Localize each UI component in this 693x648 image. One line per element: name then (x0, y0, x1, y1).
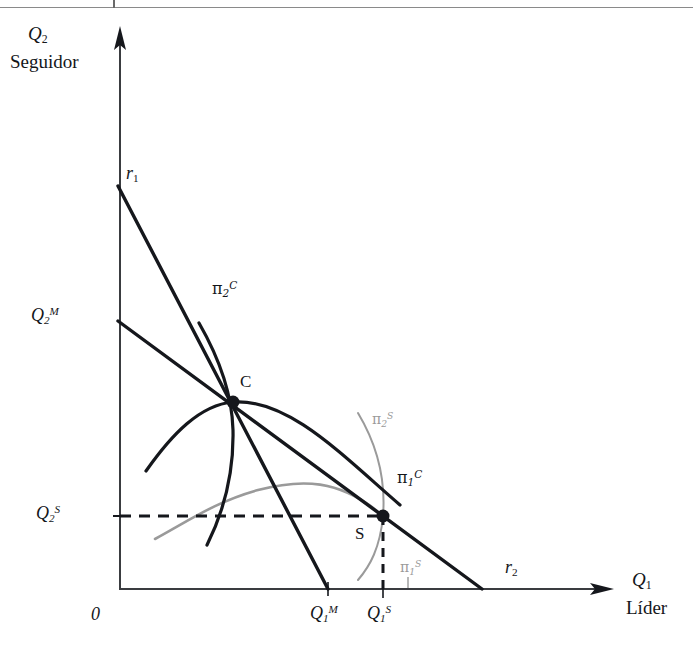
axes-group (114, 26, 614, 595)
reaction-line-label-r1: r1 (126, 164, 139, 182)
x-tick-label-q1m: Q1M (310, 604, 338, 622)
y-axis-symbol: Q2 (28, 24, 48, 43)
point-marker-C (227, 396, 240, 409)
tick-marks-group (113, 516, 383, 598)
isoprofit-label-pi2S: π2S (372, 412, 393, 426)
reaction-line-label-r2: r2 (505, 558, 518, 576)
isoprofit-curve-pi1C (146, 402, 400, 505)
point-label-S: S (355, 525, 364, 542)
point-label-C: C (240, 373, 251, 390)
x-axis-caption: Líder (626, 598, 667, 617)
reaction-line-r2 (118, 321, 482, 589)
x-axis-symbol: Q1 (632, 570, 652, 589)
isoprofit-gray-group (155, 413, 384, 580)
reaction-line-r1 (118, 186, 328, 589)
y-tick-label-q2m: Q2M (31, 306, 59, 324)
y-tick-label-q2s: Q2S (36, 504, 60, 522)
isoprofit-curve-pi2S (358, 413, 384, 580)
point-marker-S (377, 510, 390, 523)
stackelberg-diagram-svg (0, 0, 693, 648)
x-tick-label-q1s: Q1S (367, 604, 391, 622)
guide-lines-group (120, 516, 383, 589)
y-axis-caption: Seguidor (10, 52, 79, 71)
isoprofit-label-pi1S: π1S (400, 560, 421, 574)
isoprofit-label-pi1C: π1C (397, 470, 422, 486)
origin-label: 0 (91, 605, 100, 623)
figure-page: Q2 Seguidor Q1 Líder 0 Q2M Q2S Q1M Q1S r… (0, 0, 693, 648)
isoprofit-label-pi2C: π2C (212, 281, 237, 297)
